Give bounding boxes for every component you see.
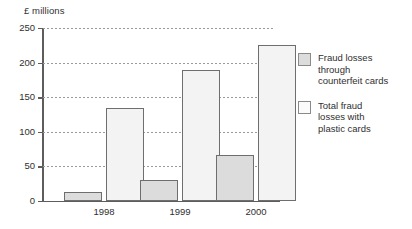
x-tick-label-1998: 1998 bbox=[93, 206, 114, 217]
plot-area: 250 200 150 100 50 0 bbox=[42, 28, 275, 201]
tick-mark-50 bbox=[38, 166, 43, 167]
y-tick-label-200: 200 bbox=[19, 57, 35, 68]
legend-label-total-line2: losses with bbox=[318, 111, 371, 123]
gridline-200 bbox=[43, 63, 275, 64]
legend-entry-counterfeit: Fraud losses through counterfeit cards bbox=[298, 52, 406, 87]
x-tick-label-1999: 1999 bbox=[169, 206, 190, 217]
y-tick-label-150: 150 bbox=[19, 91, 35, 102]
y-tick-label-50: 50 bbox=[24, 160, 35, 171]
legend-swatch-counterfeit-icon bbox=[298, 53, 311, 66]
tick-mark-200 bbox=[38, 63, 43, 64]
tick-mark-250 bbox=[38, 28, 43, 29]
legend-entry-total: Total fraud losses with plastic cards bbox=[298, 100, 406, 135]
bar-total-1998 bbox=[106, 108, 144, 201]
bar-chart: £ millions 250 200 150 100 50 bbox=[0, 0, 412, 229]
legend-swatch-total-icon bbox=[298, 101, 311, 114]
legend-label-counterfeit: Fraud losses through counterfeit cards bbox=[318, 52, 388, 87]
chart-legend: Fraud losses through counterfeit cards T… bbox=[298, 52, 406, 147]
tick-mark-100 bbox=[38, 132, 43, 133]
gridline-150 bbox=[43, 97, 275, 98]
y-tick-label-0: 0 bbox=[30, 195, 35, 206]
legend-label-counterfeit-line2: through bbox=[318, 64, 388, 76]
gridline-250 bbox=[43, 28, 275, 29]
x-axis-line bbox=[42, 201, 280, 202]
gridline-100 bbox=[43, 132, 275, 133]
x-tick-label-2000: 2000 bbox=[245, 206, 266, 217]
legend-label-counterfeit-line1: Fraud losses bbox=[318, 52, 388, 64]
bar-total-1999 bbox=[182, 70, 220, 201]
legend-label-total-line1: Total fraud bbox=[318, 100, 371, 112]
y-axis-title: £ millions bbox=[24, 5, 65, 16]
bar-counterfeit-1998 bbox=[64, 192, 102, 201]
y-axis-line bbox=[42, 28, 44, 201]
tick-mark-150 bbox=[38, 97, 43, 98]
bar-counterfeit-1999 bbox=[140, 180, 178, 201]
legend-label-counterfeit-line3: counterfeit cards bbox=[318, 75, 388, 87]
y-tick-label-100: 100 bbox=[19, 126, 35, 137]
legend-label-total: Total fraud losses with plastic cards bbox=[318, 100, 371, 135]
tick-mark-0 bbox=[38, 201, 43, 202]
legend-label-total-line3: plastic cards bbox=[318, 123, 371, 135]
bar-total-2000 bbox=[258, 45, 296, 201]
y-tick-label-250: 250 bbox=[19, 22, 35, 33]
bar-counterfeit-2000 bbox=[216, 155, 254, 201]
